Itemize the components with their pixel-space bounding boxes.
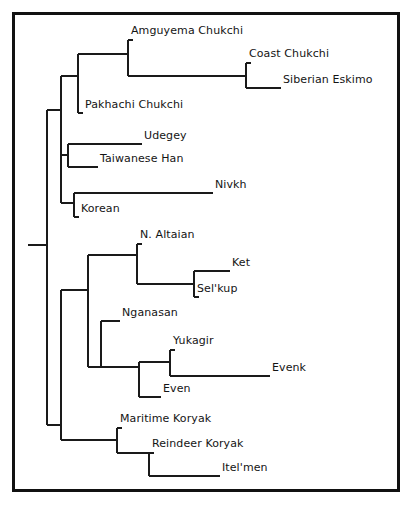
clade-coast-eskimo [246, 63, 281, 88]
clade-nganasan-tungusic [101, 321, 139, 367]
clade-altaian-ket-selkup [137, 244, 194, 284]
tip-label-coast-chukchi: Coast Chukchi [249, 48, 329, 59]
tip-label-korean: Korean [81, 203, 120, 214]
tip-label-n-altaian: N. Altaian [140, 229, 195, 240]
phylogenetic-tree-figure: Amguyema Chukchi Coast Chukchi Siberian … [0, 0, 413, 506]
clade-upper [61, 76, 78, 203]
clade-amguyema-coast-eskimo [128, 40, 246, 76]
tip-label-siberian-eskimo: Siberian Eskimo [283, 74, 373, 85]
tip-label-even: Even [163, 383, 191, 394]
clade-yukagir-evenk [170, 350, 270, 376]
tip-label-yukagir: Yukagir [173, 335, 214, 346]
tip-label-pakhachi-chukchi: Pakhachi Chukchi [85, 99, 183, 110]
tip-label-nganasan: Nganasan [122, 307, 178, 318]
tip-label-selkup: Sel'kup [197, 283, 238, 294]
clade-lower [61, 290, 117, 440]
tip-label-udegey: Udegey [144, 130, 187, 141]
tip-label-taiwanese-han: Taiwanese Han [100, 153, 183, 164]
clade-koryak-itelmen [117, 428, 149, 453]
tip-label-reindeer-koryak: Reindeer Koryak [152, 438, 244, 449]
clade-reindeer-itelmen [149, 453, 220, 476]
tip-label-amguyema-chukchi: Amguyema Chukchi [131, 25, 243, 36]
tip-label-itel-men: Itel'men [222, 462, 268, 473]
tip-label-ket: Ket [232, 257, 250, 268]
clade-root [47, 110, 61, 425]
tip-label-nivkh: Nivkh [215, 179, 247, 190]
tip-label-maritime-koryak: Maritime Koryak [120, 413, 211, 424]
tip-label-evenk: Evenk [272, 362, 306, 373]
